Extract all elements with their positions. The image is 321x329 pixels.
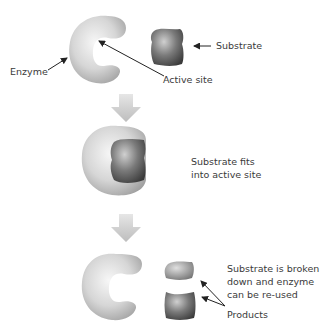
enzyme-pointer (48, 58, 67, 70)
active-site-label: Active site (163, 74, 213, 86)
stage3-caption-line1: Substrate is broken (227, 263, 319, 275)
process-arrow-1 (111, 94, 141, 122)
product-top-pointer (201, 281, 225, 306)
product-bottom-pointer (202, 297, 225, 306)
stage2-caption-line1: Substrate fits (191, 156, 255, 168)
process-arrow-2 (111, 214, 141, 242)
enzyme-shape-stage1 (69, 16, 126, 84)
products-label: Products (227, 309, 268, 321)
product-bottom (165, 292, 196, 320)
enzyme-shape-stage3 (82, 254, 142, 320)
stage3-caption-line2: down and enzyme (227, 276, 314, 288)
enzyme-label: Enzyme (10, 66, 48, 78)
enzyme-substrate-complex (82, 126, 146, 196)
product-top (165, 262, 194, 280)
substrate-shape-stage1 (151, 29, 184, 66)
stage3-caption-line3: can be re-used (227, 289, 298, 301)
substrate-label: Substrate (216, 40, 262, 52)
stage2-caption-line2: into active site (191, 169, 261, 181)
